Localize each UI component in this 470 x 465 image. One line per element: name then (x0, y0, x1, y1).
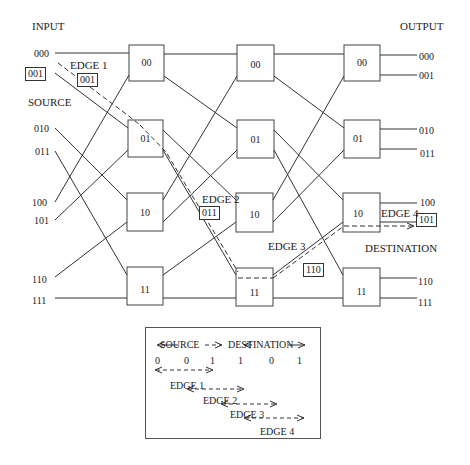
legend-edge-3: EDGE 3 (230, 409, 264, 421)
legend-bit-4: 1 (238, 355, 243, 367)
edge-2-label: EDGE 2 (202, 193, 240, 205)
edge-2-tag: 011 (199, 206, 220, 220)
switch-s3-01-label: 01 (344, 133, 372, 145)
legend-source-label: SOURCE (160, 339, 199, 351)
switch-s2-10-label: 10 (236, 209, 273, 221)
destination-heading: DESTINATION (365, 242, 437, 254)
output-100: 100 (420, 197, 435, 209)
edge-3-tag: 110 (303, 263, 324, 277)
switch-s3-00-label: 00 (344, 57, 380, 69)
output-101-highlighted: 101 (416, 213, 437, 227)
output-000: 000 (419, 51, 434, 63)
switch-s2-00-label: 00 (237, 59, 274, 71)
edge-1-tag: 001 (77, 73, 98, 87)
legend-bit-5: 0 (269, 355, 274, 367)
input-000: 000 (34, 48, 49, 60)
input-001-highlighted: 001 (25, 67, 46, 81)
output-011: 011 (420, 148, 435, 160)
output-110: 110 (418, 276, 433, 288)
stage-1-to-2-links (163, 54, 237, 298)
input-links (55, 53, 129, 298)
legend-bit-3: 1 (210, 355, 215, 367)
edge-3-label: EDGE 3 (268, 240, 306, 252)
output-001: 001 (419, 70, 434, 82)
switch-s2-01-label: 01 (237, 134, 274, 146)
legend-bit-1: 0 (155, 355, 160, 367)
stage-2-switches (236, 45, 274, 306)
stage-1-switches (127, 45, 164, 305)
input-111: 111 (32, 295, 46, 307)
legend-bit-6: 1 (297, 355, 302, 367)
switch-s1-01-label: 01 (128, 133, 163, 145)
stage-3-switches (343, 45, 380, 306)
switch-s3-10-label: 10 (343, 208, 373, 220)
output-010: 010 (419, 125, 434, 137)
input-heading: INPUT (32, 20, 64, 32)
input-010: 010 (34, 123, 49, 135)
output-111: 111 (418, 297, 432, 309)
source-heading: SOURCE (28, 96, 71, 108)
switch-s1-00-label: 00 (129, 57, 164, 69)
legend-edge-2: EDGE 2 (203, 395, 237, 407)
output-heading: OUTPUT (400, 20, 443, 32)
legend-edge-4: EDGE 4 (260, 426, 294, 438)
output-links (380, 55, 417, 298)
edge-4-label: EDGE 4 (381, 207, 419, 219)
switch-s1-10-label: 10 (127, 207, 163, 219)
routing-path (58, 63, 414, 278)
legend-destination-label: DESTINATION (228, 339, 294, 351)
switch-s2-11-label: 11 (236, 287, 273, 299)
switch-s1-11-label: 11 (127, 284, 163, 296)
legend-edge-1: EDGE 1 (170, 380, 204, 392)
input-100: 100 (32, 197, 47, 209)
input-101: 101 (34, 215, 49, 227)
edge-1-path (58, 63, 140, 125)
input-011: 011 (35, 146, 50, 158)
input-110: 110 (32, 274, 47, 286)
edge-1-label: EDGE 1 (70, 59, 108, 71)
legend-bit-2: 0 (184, 355, 189, 367)
switch-s3-11-label: 11 (343, 286, 380, 298)
stage-2-to-3-links (273, 54, 344, 298)
